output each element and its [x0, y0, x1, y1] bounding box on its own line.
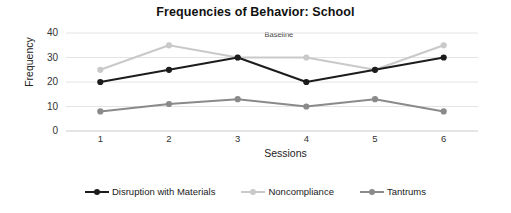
- data-point: [372, 67, 378, 73]
- legend-marker-icon: [250, 189, 256, 195]
- chart-container: Frequencies of Behavior: School Frequenc…: [0, 0, 511, 213]
- data-point: [441, 108, 447, 114]
- data-point: [166, 67, 172, 73]
- series-line: [100, 99, 443, 111]
- data-point: [372, 96, 378, 102]
- data-point: [303, 79, 309, 85]
- series-line: [100, 58, 443, 83]
- data-point: [166, 101, 172, 107]
- data-point: [97, 79, 103, 85]
- data-point: [303, 54, 309, 60]
- legend-swatch-icon: [241, 187, 265, 196]
- data-point: [166, 42, 172, 48]
- legend-swatch-icon: [360, 187, 384, 196]
- chart-legend: Disruption with MaterialsNoncomplianceTa…: [0, 186, 511, 197]
- legend-label: Disruption with Materials: [112, 186, 215, 197]
- data-point: [441, 42, 447, 48]
- data-point: [97, 108, 103, 114]
- data-point: [235, 54, 241, 60]
- legend-swatch-icon: [85, 187, 109, 196]
- plot-area: [0, 0, 511, 213]
- legend-marker-icon: [94, 189, 100, 195]
- legend-label: Noncompliance: [268, 186, 333, 197]
- data-point: [235, 96, 241, 102]
- legend-label: Tantrums: [387, 186, 426, 197]
- data-point: [441, 54, 447, 60]
- data-point: [303, 103, 309, 109]
- legend-item[interactable]: Tantrums: [360, 186, 426, 197]
- legend-item[interactable]: Noncompliance: [241, 186, 333, 197]
- legend-marker-icon: [369, 189, 375, 195]
- data-point: [97, 67, 103, 73]
- legend-item[interactable]: Disruption with Materials: [85, 186, 215, 197]
